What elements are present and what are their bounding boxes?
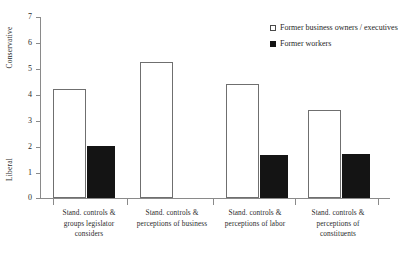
chart-legend: Former business owners / executives Form…	[270, 24, 398, 56]
x-axis-label-group-1: Stand. controls & groups legislator cons…	[44, 208, 134, 240]
x-axis-label-group-3-line-2: perceptions of labor	[211, 219, 299, 230]
y-tick-2	[36, 147, 41, 148]
legend-item-former-workers: Former workers	[270, 40, 398, 48]
y-tick-label-2: 2	[12, 143, 32, 151]
y-axis-line	[40, 17, 41, 198]
legend-label-former-business-owners: Former business owners / executives	[280, 24, 398, 32]
x-axis-label-group-1-line-1: Stand. controls &	[44, 208, 134, 219]
bar-group-2-former-business-owners	[140, 62, 173, 198]
x-tick-sep-3	[213, 198, 214, 205]
y-tick-label-1: 1	[12, 169, 32, 177]
bar-group-1-former-workers	[87, 146, 115, 198]
x-tick-sep-4	[295, 198, 296, 205]
x-axis-line	[40, 198, 390, 199]
x-axis-label-group-4-line-1: Stand. controls &	[294, 208, 382, 219]
legend-item-former-business-owners: Former business owners / executives	[270, 24, 398, 32]
x-axis-label-group-3-line-1: Stand. controls &	[211, 208, 299, 219]
x-axis-label-group-1-line-2: groups legislator	[44, 219, 134, 230]
x-tick-sep-5	[378, 198, 379, 205]
y-tick-1	[36, 173, 41, 174]
x-axis-label-group-2: Stand. controls & perceptions of busines…	[127, 208, 217, 229]
bar-group-3-former-workers	[260, 155, 288, 198]
x-axis-label-group-3: Stand. controls & perceptions of labor	[211, 208, 299, 229]
bar-group-4-former-workers	[342, 154, 370, 198]
y-axis-conservative-label: Conservative	[5, 25, 14, 71]
legend-label-former-workers: Former workers	[280, 40, 331, 48]
x-axis-label-group-4: Stand. controls & perceptions of constit…	[294, 208, 382, 240]
x-axis-label-group-1-line-3: considers	[44, 229, 134, 240]
bar-chart: Conservative Liberal 7 6 5 4 3 2 1 0 Sta…	[0, 0, 411, 262]
y-tick-label-4: 4	[12, 91, 32, 99]
y-tick-5	[36, 69, 41, 70]
y-tick-label-3: 3	[12, 117, 32, 125]
bar-group-1-former-business-owners	[53, 89, 86, 198]
x-tick-sep-2	[127, 198, 128, 205]
y-tick-6	[36, 43, 41, 44]
y-tick-label-5: 5	[12, 65, 32, 73]
x-axis-label-group-4-line-2: perceptions of	[294, 219, 382, 230]
x-axis-label-group-4-line-3: constituents	[294, 229, 382, 240]
y-tick-7	[36, 17, 41, 18]
open-square-icon	[270, 25, 276, 31]
y-tick-3	[36, 121, 41, 122]
bar-group-4-former-business-owners	[308, 110, 341, 198]
x-tick-sep-1	[53, 198, 54, 205]
y-tick-label-0: 0	[12, 194, 32, 202]
filled-square-icon	[270, 41, 276, 47]
bar-group-3-former-business-owners	[226, 84, 259, 198]
x-axis-label-group-2-line-1: Stand. controls &	[127, 208, 217, 219]
y-tick-4	[36, 95, 41, 96]
x-axis-label-group-2-line-2: perceptions of business	[127, 219, 217, 230]
y-tick-label-6: 6	[12, 39, 32, 47]
y-tick-0	[36, 198, 41, 199]
y-tick-label-7: 7	[12, 13, 32, 21]
